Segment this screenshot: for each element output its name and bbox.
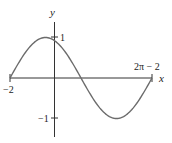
x-axis-label: x (158, 72, 164, 84)
x-tick-label-max: 2π − 2 (134, 61, 160, 72)
chart-plot: y x −2 2π − 2 1 −1 (0, 0, 172, 143)
y-tick-label-1: 1 (60, 32, 65, 43)
y-tick-label-neg1: −1 (38, 113, 49, 124)
y-axis-label: y (49, 6, 55, 18)
x-tick-label-min: −2 (3, 84, 14, 95)
